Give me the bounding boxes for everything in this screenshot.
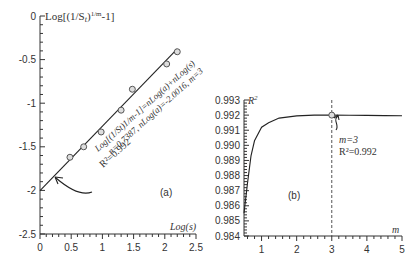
b-x-tick-label: 5 [399,244,405,255]
a-y-tick-label: -0.5 [19,54,37,65]
b-y-tick-label: 0.985 [215,215,240,226]
b-x-tick-label: 2 [294,244,300,255]
a-y-axis-label: Log[(1/St)1/m-1] [45,10,114,24]
a-equation-annotation: Log[(1/St)1/m-1]=nLog(a)+nLog(s) n=0.738… [92,57,205,162]
a-data-point [98,129,104,135]
a-x-tick-label: 2 [162,242,168,253]
b-y-axis-label: R2 [247,94,258,106]
a-y-tick-label: -1.5 [19,141,37,152]
panel-a: 0-0.5-1-1.5-2-2.5 00.511.522.5 Log[(1/St… [19,10,206,253]
b-y-tick-label: 0.992 [215,110,240,121]
b-y-tick-label: 0.993 [215,95,240,106]
figure: 0-0.5-1-1.5-2-2.5 00.511.522.5 Log[(1/St… [0,0,420,269]
b-y-tick-label: 0.989 [215,155,240,166]
b-optimum-marker [329,112,335,118]
a-data-point [164,61,170,67]
b-r2-curve [244,115,402,213]
b-annotation-r2: R²=0.992 [339,146,377,157]
a-panel-label: (a) [160,187,172,198]
b-panel-label: (b) [288,190,300,201]
a-y-tick-label: -2.5 [19,229,37,240]
a-y-ticks: 0-0.5-1-1.5-2-2.5 [19,11,45,240]
b-x-tick-label: 1 [259,244,265,255]
a-x-ticks: 00.511.522.5 [37,234,203,253]
a-arrow-curve [56,178,92,193]
a-x-tick-label: 1.5 [127,242,141,253]
a-x-tick-label: 0.5 [64,242,78,253]
b-x-ticks: 12345 [248,236,406,255]
a-x-tick-label: 2.5 [189,242,203,253]
a-x-tick-label: 1 [100,242,106,253]
a-y-tick-label: -2 [27,185,36,196]
panel-b: 0.9840.9850.9860.9870.9880.9890.9900.991… [215,94,405,255]
a-data-point [118,107,124,113]
b-y-tick-label: 0.986 [215,200,240,211]
b-x-tick-label: 3 [329,244,335,255]
b-x-tick-label: 4 [364,244,370,255]
b-y-tick-label: 0.991 [215,125,240,136]
b-y-tick-label: 0.990 [215,140,240,151]
a-data-point [174,49,180,55]
a-data-point [129,86,135,92]
b-y-tick-label: 0.987 [215,185,240,196]
a-data-point [67,154,73,160]
a-y-tick-label: 0 [30,11,36,22]
a-y-tick-label: -1 [27,98,36,109]
b-y-tick-label: 0.988 [215,170,240,181]
svg-text:Log[(1/St)1/m-1]=nLog(a)+nLog(: Log[(1/St)1/m-1]=nLog(a)+nLog(s) [92,58,197,154]
a-data-point [81,144,87,150]
a-fit-line [40,49,177,191]
a-x-axis-label: Log(s) [169,221,197,233]
b-x-axis-label: m [392,224,399,235]
b-arrow-curve [336,116,338,130]
b-y-tick-label: 0.984 [215,231,240,242]
b-annotation-m: m=3 [339,134,358,145]
a-x-tick-label: 0 [37,242,43,253]
